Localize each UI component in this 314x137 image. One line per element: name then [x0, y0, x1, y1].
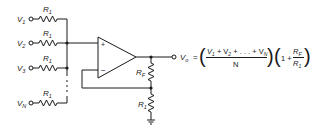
input-row-v1: V1 R1: [17, 5, 67, 25]
input-label-v1: V1: [17, 15, 25, 25]
right-paren: ): [267, 45, 274, 67]
averaging-amplifier-diagram: V1 R1 V2 R1 V3 R1 VN R1 + − RF: [0, 0, 314, 137]
input-terminal-icon: [29, 17, 33, 21]
plus-input-label: +: [101, 41, 105, 48]
left-paren: (: [199, 45, 206, 67]
input-label-v3: V3: [17, 64, 26, 74]
circuit-schematic: V1 R1 V2 R1 V3 R1 VN R1 + − RF: [0, 0, 314, 137]
input-row-v2: V2 R1: [17, 29, 67, 49]
left-paren: (: [274, 45, 281, 67]
resistor-label-r1: R1: [43, 5, 52, 15]
resistor-icon: [33, 40, 67, 46]
minus-input-label: −: [101, 66, 106, 75]
output-equation: Vo = ( V1 + V2 + . . . + VN N ) ( 1 + RF…: [180, 45, 311, 69]
input-row-v3: V3 R1: [17, 54, 67, 74]
fraction-numerator: V1 + V2 + . . . + VN: [207, 47, 268, 57]
resistor-label-r1: R1: [43, 29, 52, 39]
input-terminal-icon: [29, 66, 33, 70]
junction-dot: [65, 66, 68, 69]
feedback-resistor-icon: [148, 57, 154, 88]
equals-sign: =: [193, 53, 198, 62]
right-paren: ): [304, 45, 311, 67]
gain-prefix: 1 +: [281, 54, 292, 63]
resistor-icon: [33, 65, 67, 71]
input-terminal-icon: [29, 41, 33, 45]
ground-resistor-label: R1: [138, 100, 147, 110]
feedback-resistor-label: RF: [136, 68, 146, 78]
resistor-icon: [33, 100, 67, 106]
output-terminal-icon: [172, 55, 176, 59]
ground-resistor-icon: [148, 88, 154, 120]
resistor-icon: [33, 16, 67, 22]
input-row-vn: VN R1: [17, 89, 67, 109]
ground-icon: [147, 120, 155, 124]
output-label: Vo: [180, 53, 188, 63]
input-terminal-icon: [29, 101, 33, 105]
resistor-label-r1: R1: [43, 89, 52, 99]
fraction-denominator: N: [233, 60, 238, 69]
input-label-v2: V2: [17, 39, 25, 49]
resistor-label-r1: R1: [43, 54, 52, 64]
gain-numerator: RF: [293, 47, 302, 57]
opamp-icon: + −: [98, 37, 136, 78]
input-label-vn: VN: [17, 99, 26, 109]
gain-denominator: R1: [293, 59, 301, 69]
